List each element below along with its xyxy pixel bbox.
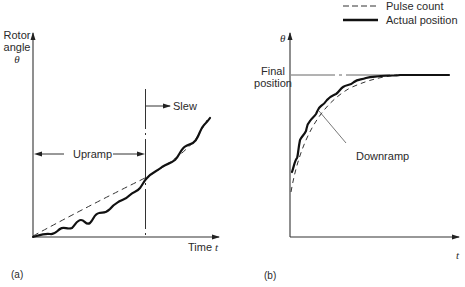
legend-actual-position: Actual position — [386, 14, 458, 26]
final-position-label: Final position — [253, 65, 293, 89]
stepper-motor-diagram — [0, 0, 465, 287]
x-axis-label-a: Time t — [188, 241, 218, 253]
y-label-theta-a: θ — [2, 53, 32, 65]
actual-position-curve-a — [33, 118, 210, 237]
panel-b-tag: (b) — [264, 270, 276, 282]
x-label-time: Time — [188, 241, 215, 253]
final-label-line2: position — [253, 77, 293, 89]
upramp-label: Upramp — [73, 148, 112, 160]
y-label-rotor: Rotor — [2, 29, 32, 41]
panel-a-axes — [33, 33, 219, 237]
pulse-count-curve-b — [291, 75, 448, 192]
panel-a-tag: (a) — [11, 269, 23, 281]
panel-b-axes — [290, 33, 459, 237]
x-label-t-b: t — [456, 249, 459, 261]
legend-pulse-count: Pulse count — [386, 0, 443, 12]
x-label-t-a: t — [215, 241, 218, 253]
downramp-label: Downramp — [356, 150, 409, 162]
y-label-theta-b: θ — [280, 32, 285, 44]
y-label-angle: angle — [2, 41, 32, 53]
downramp-pointer — [319, 111, 346, 143]
final-label-line1: Final — [253, 65, 293, 77]
y-axis-label-a: Rotor angle θ — [2, 29, 32, 65]
slew-label: Slew — [173, 100, 197, 112]
pulse-count-curve-a — [33, 120, 207, 236]
